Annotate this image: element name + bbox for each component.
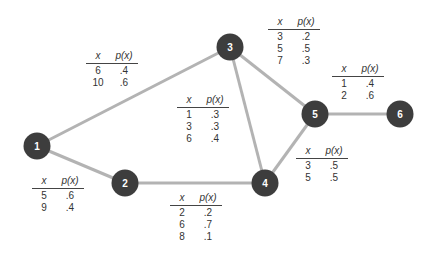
node-4: 4 (252, 170, 279, 197)
header-p: p(x) (320, 145, 348, 157)
prob-table-1-2: xp(x) 5.6 9.4 (32, 175, 84, 214)
cell-p: .6 (356, 90, 384, 102)
cell-x: 7 (268, 55, 292, 67)
header-x: x (86, 50, 110, 62)
node-3: 3 (217, 34, 244, 61)
node-2: 2 (112, 170, 139, 197)
node-6: 6 (387, 101, 414, 128)
header-p: p(x) (56, 175, 84, 187)
cell-p: .5 (320, 172, 348, 184)
cell-p: .5 (320, 160, 348, 172)
cell-p: .2 (194, 207, 222, 219)
header-p: p(x) (356, 63, 384, 75)
header-x: x (177, 94, 201, 106)
cell-p: .2 (292, 31, 320, 43)
header-x: x (268, 16, 292, 28)
cell-p: .4 (56, 202, 84, 214)
cell-p: .6 (110, 77, 138, 89)
edge-3-4 (230, 47, 265, 183)
cell-x: 3 (268, 31, 292, 43)
prob-table-1-3: xp(x) 6.4 10.6 (86, 50, 138, 89)
header-x: x (32, 175, 56, 187)
cell-x: 6 (170, 219, 194, 231)
cell-p: .4 (356, 78, 384, 90)
cell-x: 1 (177, 109, 201, 121)
cell-p: .5 (292, 43, 320, 55)
cell-x: 5 (268, 43, 292, 55)
cell-x: 10 (86, 77, 110, 89)
cell-x: 8 (170, 231, 194, 243)
cell-x: 2 (170, 207, 194, 219)
cell-p: .3 (201, 109, 229, 121)
cell-x: 2 (332, 90, 356, 102)
cell-p: .3 (201, 121, 229, 133)
cell-p: .4 (110, 65, 138, 77)
cell-x: 6 (177, 133, 201, 145)
cell-x: 3 (177, 121, 201, 133)
header-p: p(x) (292, 16, 320, 28)
cell-x: 5 (32, 190, 56, 202)
prob-table-2-4: xp(x) 2.2 6.7 8.1 (170, 192, 222, 243)
cell-x: 3 (296, 160, 320, 172)
prob-table-4-5: xp(x) 3.5 5.5 (296, 145, 348, 184)
cell-x: 1 (332, 78, 356, 90)
cell-p: .3 (292, 55, 320, 67)
prob-table-3-4: xp(x) 1.3 3.3 6.4 (177, 94, 229, 145)
header-p: p(x) (201, 94, 229, 106)
header-p: p(x) (110, 50, 138, 62)
header-p: p(x) (194, 192, 222, 204)
cell-p: .6 (56, 190, 84, 202)
cell-p: .1 (194, 231, 222, 243)
cell-p: .4 (201, 133, 229, 145)
prob-table-5-6: xp(x) 1.4 2.6 (332, 63, 384, 102)
cell-x: 6 (86, 65, 110, 77)
node-5: 5 (302, 101, 329, 128)
cell-x: 9 (32, 202, 56, 214)
cell-x: 5 (296, 172, 320, 184)
header-x: x (332, 63, 356, 75)
header-x: x (296, 145, 320, 157)
prob-table-3-5: xp(x) 3.2 5.5 7.3 (268, 16, 320, 67)
cell-p: .7 (194, 219, 222, 231)
node-1: 1 (24, 133, 51, 160)
header-x: x (170, 192, 194, 204)
